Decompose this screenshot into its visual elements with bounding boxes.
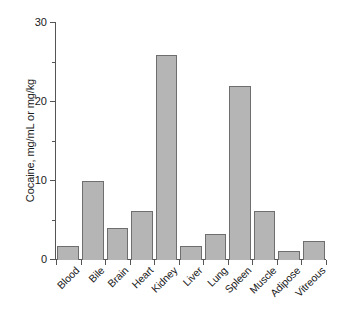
bar[interactable] <box>278 251 300 260</box>
bar-slot <box>56 22 81 260</box>
plot-area: 0102030 <box>55 22 325 259</box>
x-tick-label: Bile <box>86 264 107 285</box>
bar[interactable] <box>254 211 276 260</box>
y-tick-label: 30 <box>25 14 47 30</box>
y-tick-major: 20 <box>50 101 55 102</box>
bar[interactable] <box>205 234 227 260</box>
y-tick-major: 30 <box>50 22 55 23</box>
bar[interactable] <box>131 211 153 260</box>
bar[interactable] <box>57 246 79 260</box>
y-tick-label: 0 <box>25 251 47 267</box>
bar[interactable] <box>303 241 325 260</box>
bar-slot <box>105 22 130 260</box>
bar-slot <box>301 22 326 260</box>
bar[interactable] <box>156 55 178 260</box>
y-tick-label: 20 <box>25 93 47 109</box>
y-tick-major: 10 <box>50 180 55 181</box>
bar[interactable] <box>107 228 129 260</box>
x-tick-label: Spleen <box>222 264 253 295</box>
bar-slot <box>252 22 277 260</box>
x-tick-label: Blood <box>55 264 82 291</box>
bar-slot <box>81 22 106 260</box>
x-tick-label: Brain <box>105 264 130 289</box>
y-axis-label: Cocaine, mg/mL or mg/kg <box>22 22 38 259</box>
y-tick-minor <box>52 62 55 63</box>
bar-chart-figure: Cocaine, mg/mL or mg/kg 0102030 BloodBil… <box>0 0 338 309</box>
y-tick-label: 10 <box>25 172 47 188</box>
bar[interactable] <box>82 181 104 260</box>
x-tick-label: Kidney <box>149 264 180 295</box>
bar-slot <box>154 22 179 260</box>
x-axis-tick-labels: BloodBileBrainHeartKidneyLiverLungSpleen… <box>55 264 327 309</box>
bar-slot <box>277 22 302 260</box>
bar[interactable] <box>180 246 202 260</box>
bar-slot <box>130 22 155 260</box>
y-tick-major: 0 <box>50 259 55 260</box>
bar[interactable] <box>229 86 251 260</box>
bar-slot <box>228 22 253 260</box>
y-tick-minor <box>52 141 55 142</box>
x-tick-label: Liver <box>180 264 204 288</box>
bar-series <box>56 22 326 260</box>
y-tick-minor <box>52 220 55 221</box>
bar-slot <box>179 22 204 260</box>
bar-slot <box>203 22 228 260</box>
